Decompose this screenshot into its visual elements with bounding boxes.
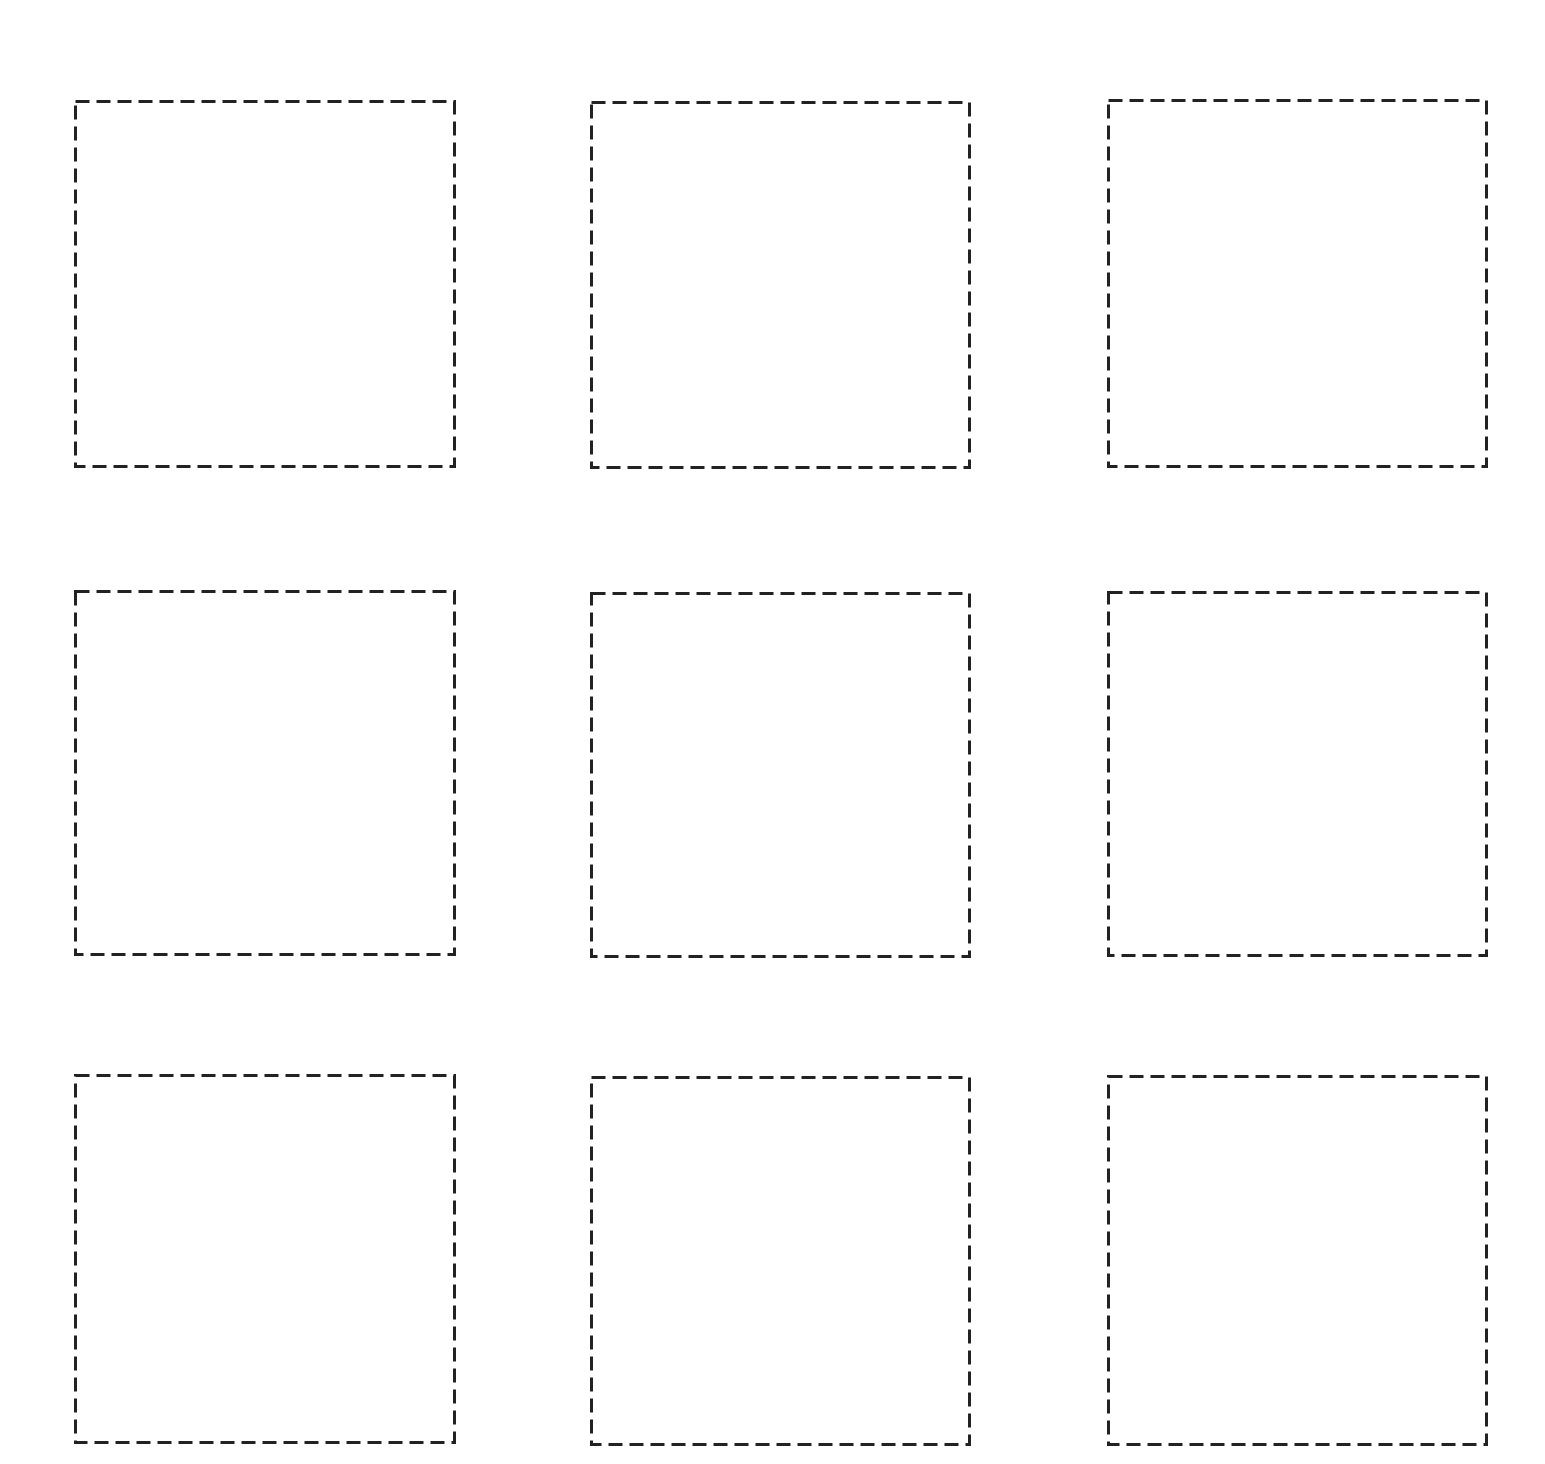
- dashed-border-shape: [590, 1076, 971, 1446]
- dashed-border-shape: [1107, 99, 1488, 468]
- dashed-border-shape: [74, 100, 456, 468]
- dashed-box-r2-c2: [590, 592, 971, 958]
- dashed-box-r2-c1: [74, 590, 456, 956]
- dashed-box-r1-c3: [1107, 99, 1488, 468]
- dashed-border-shape: [590, 101, 971, 469]
- dashed-box-grid: [0, 0, 1545, 1464]
- dashed-box-r1-c1: [74, 100, 456, 468]
- dashed-border-shape: [1107, 591, 1488, 957]
- dashed-box-r3-c1: [74, 1074, 456, 1444]
- dashed-border-shape: [74, 1074, 456, 1444]
- dashed-border-shape: [74, 590, 456, 956]
- dashed-border-shape: [1107, 1075, 1488, 1446]
- dashed-border-shape: [590, 592, 971, 958]
- dashed-box-r2-c3: [1107, 591, 1488, 957]
- dashed-box-r1-c2: [590, 101, 971, 469]
- dashed-box-r3-c3: [1107, 1075, 1488, 1446]
- dashed-box-r3-c2: [590, 1076, 971, 1446]
